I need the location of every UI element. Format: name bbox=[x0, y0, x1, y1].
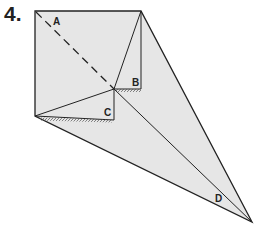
label-b: B bbox=[132, 77, 139, 88]
label-d: D bbox=[215, 193, 222, 204]
label-a: A bbox=[53, 16, 60, 27]
flap-c-hatch-edge bbox=[40, 119, 112, 121]
label-c: C bbox=[104, 107, 111, 118]
origami-fold-diagram: A B C D bbox=[0, 0, 264, 232]
